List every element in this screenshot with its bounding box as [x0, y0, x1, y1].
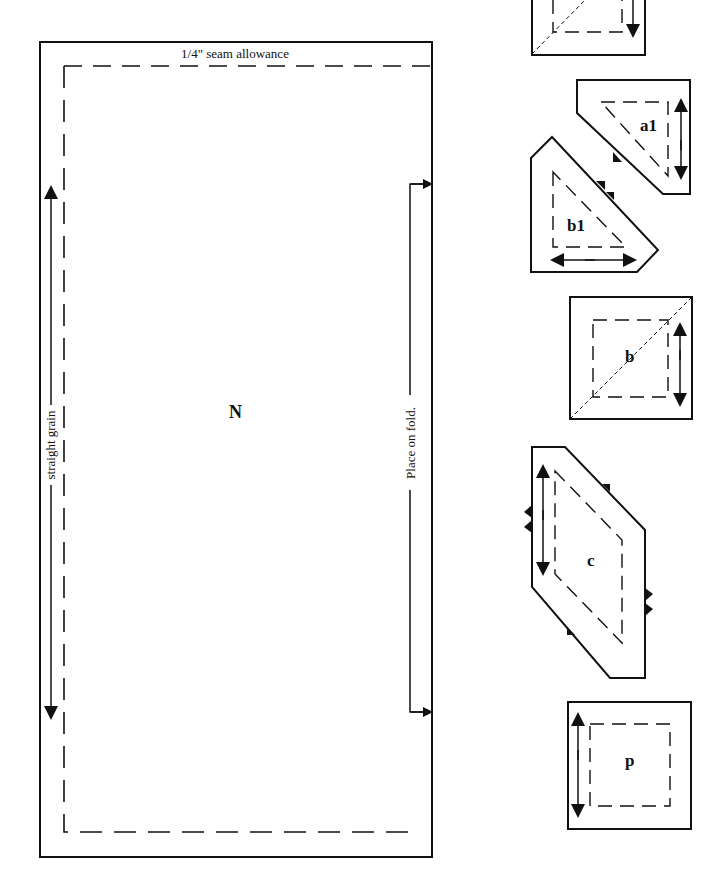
seam-line — [64, 66, 410, 832]
piece-label-n: N — [229, 402, 242, 423]
fold-label: Place on fold. — [403, 395, 419, 491]
piece-label-p: p — [625, 751, 634, 771]
piece-label-a1: a1 — [640, 116, 657, 136]
piece-label-b1: b1 — [567, 216, 585, 236]
piece-label-b: b — [625, 347, 634, 367]
cut-line — [40, 42, 432, 857]
seam-allowance-label: 1/4" seam allowance — [0, 46, 470, 62]
pattern-piece-a1 — [577, 80, 690, 194]
pattern-piece-b1 — [531, 137, 658, 272]
pattern-piece-n — [40, 42, 432, 857]
piece-label-c: c — [587, 551, 595, 571]
pattern-sheet — [0, 0, 726, 883]
pattern-piece-top-partial — [532, 0, 645, 55]
grain-label: straight grain — [43, 392, 59, 498]
